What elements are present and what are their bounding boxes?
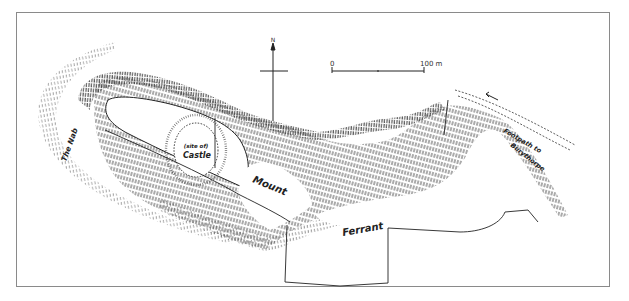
north-arrow-icon xyxy=(260,43,288,121)
scale-start-label: 0 xyxy=(330,60,334,68)
footpath-arrow-icon xyxy=(486,92,498,100)
north-label: N xyxy=(271,36,276,43)
label-site-of: (site of) xyxy=(184,143,209,149)
label-castle: Castle xyxy=(183,151,212,160)
castle-site-ring xyxy=(174,123,218,177)
scale-end-label: 100 m xyxy=(420,60,443,68)
hachure-map: N 0 100 m The Nab (site of) Castle Mount… xyxy=(0,0,629,301)
scale-bar xyxy=(332,67,424,73)
